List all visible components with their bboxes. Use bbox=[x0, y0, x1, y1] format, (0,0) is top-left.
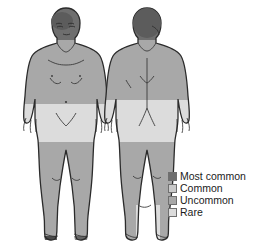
legend: Most common Common Uncommon Rare bbox=[168, 171, 258, 218]
legend-item-common: Common bbox=[168, 183, 258, 194]
legend-label-common: Common bbox=[180, 183, 223, 194]
anterior-left-toes bbox=[44, 236, 57, 240]
anterior-hair bbox=[51, 12, 73, 30]
anterior-right-toes bbox=[74, 236, 88, 240]
anterior-nipple-left bbox=[51, 75, 53, 77]
legend-item-rare: Rare bbox=[168, 207, 258, 218]
legend-label-rare: Rare bbox=[180, 207, 203, 218]
swatch-rare bbox=[168, 208, 177, 217]
swatch-common bbox=[168, 184, 177, 193]
legend-label-most-common: Most common bbox=[180, 171, 246, 182]
posterior-zone-buttocks-rare bbox=[99, 100, 199, 142]
posterior-left-ankle-line bbox=[138, 205, 151, 207]
legend-item-uncommon: Uncommon bbox=[168, 195, 258, 206]
anterior-nipple-right bbox=[79, 75, 81, 77]
legend-label-uncommon: Uncommon bbox=[180, 195, 234, 206]
legend-item-most-common: Most common bbox=[168, 171, 258, 182]
swatch-uncommon bbox=[168, 196, 177, 205]
anterior-shading-zones bbox=[18, 0, 118, 251]
anterior-figure bbox=[18, 0, 118, 251]
swatch-most-common bbox=[168, 172, 177, 181]
anterior-navel bbox=[65, 101, 67, 103]
posterior-hair bbox=[133, 8, 161, 38]
